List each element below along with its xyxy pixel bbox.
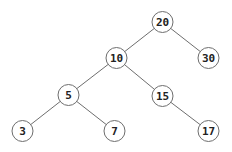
node-label: 15 (156, 90, 169, 103)
tree-node-15: 15 (152, 86, 173, 107)
node-label: 30 (202, 52, 215, 65)
edge-5-3 (31, 101, 60, 124)
tree-edges (31, 28, 200, 124)
node-label: 17 (202, 125, 215, 138)
tree-node-10: 10 (106, 48, 127, 69)
tree-node-17: 17 (198, 121, 219, 142)
edge-15-17 (171, 102, 200, 124)
edge-10-5 (77, 64, 108, 88)
edge-20-10 (125, 28, 154, 51)
node-label: 7 (111, 125, 118, 138)
node-label: 5 (65, 89, 72, 102)
tree-nodes: 2010305153717 (12, 12, 219, 142)
node-label: 20 (156, 16, 169, 29)
node-label: 3 (19, 125, 26, 138)
node-label: 10 (110, 52, 123, 65)
tree-node-30: 30 (198, 48, 219, 69)
edge-5-7 (77, 101, 106, 124)
tree-node-3: 3 (12, 121, 33, 142)
tree-node-5: 5 (58, 85, 79, 106)
tree-node-7: 7 (104, 121, 125, 142)
edge-10-15 (125, 65, 155, 90)
binary-tree-diagram: 2010305153717 (0, 0, 232, 152)
edge-20-30 (171, 28, 200, 51)
tree-node-20: 20 (152, 12, 173, 33)
